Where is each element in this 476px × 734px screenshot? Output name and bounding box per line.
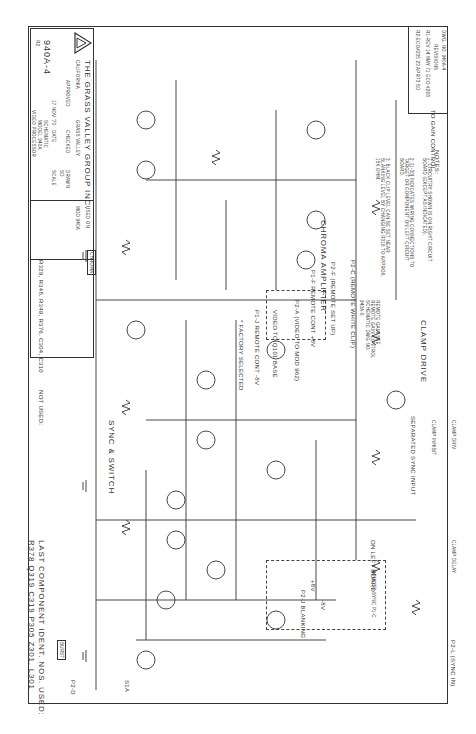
dwg-number: 940A-4 [42,40,52,75]
p2c-label: P2-C (REMOTE WHITE CLIP) [349,260,356,348]
sync-switch-title: SYNC & SWITCH [107,420,116,494]
checked-label: CHECKED [65,130,70,153]
revision-code: R2 [35,40,40,46]
used-on-value: MOD 940A [75,206,80,230]
gvg-logo-icon [74,32,92,54]
p2f-label: P2-F (REMOTE SET UP) [329,262,336,336]
clamp-drive-label: CLAMP DRIV [451,420,456,449]
factory-selected-note: * FACTORY SELECTED [237,320,244,391]
scale-label: SCALE [51,170,56,186]
drawn-label: DRAWN [65,170,70,188]
drawn-value: SD [59,170,64,177]
dwg-no-label: DWG. NO. 940A-4 [441,30,446,70]
title-line-2: MODEL 940A [37,120,42,150]
clamp-delay-label: CLAMP DELAY [451,540,456,573]
company-city: GRASS VALLEY [75,120,80,156]
revision-1: R1-REV 14 MAY 71 ECO #268 [425,30,430,97]
title-line-3: VIDEO PROCESSOR [31,110,36,157]
revisions-header: REVISIONS [433,44,438,70]
p2d-label: P2-D [69,680,76,695]
note-3: 3. BLACK CLIP LEVEL CAN BE SET NEAR BLAN… [374,158,390,278]
last-component-list: R378 Q319 C319 P305 Z301, L301 [27,540,36,690]
title-line-1: SCHEMATIC [43,120,48,148]
company-name: THE GRASS VALLEY GROUP INC. [83,60,92,209]
not-used-label: NOT USED: [37,390,44,425]
date-value: 17 NOV '70 [51,100,56,125]
rotated-drawing: DWG. NO. 940A-4 REVISIONS R1-REV 14 MAY … [0,0,476,734]
remote-gain-note: REMOTE GAIN SEE REMOTE GAIN CONTROL SCHE… [359,300,380,360]
schematic-sheet: DWG. NO. 940A-4 REVISIONS R1-REV 14 MAY … [0,0,476,734]
last-component-label: LAST COMPONENT IDENT. NOS. USED: [37,540,46,716]
separated-sync-label: SEPARATED SYNC INPUT [409,416,416,495]
revision-2: R2-ECO#235 23 APR73 SD [415,30,420,90]
clamp-drive-title: CLAMP DRIVE [419,320,428,383]
left-board-box [266,560,386,630]
to-gain-control-label: TO GAIN CONTROL [429,110,436,170]
approved-label: APPROVED [65,80,70,107]
company-state: CALIFORNIA [75,60,80,89]
remote-sync-label: REMOTE SYNC P1-C [371,570,376,618]
p1j-label: P1-J REMOTE CONT -8V [253,310,260,385]
note-1: 1. CIRCUITRY SHOWN IS ON RIGHT CIRCUIT B… [422,158,432,278]
note-2: 2. [1-30] INDICATES WIRING CONNECTIONS T… [398,158,414,278]
remote-gain-box [266,290,326,340]
date-label: DATE [51,130,56,142]
s1a-label: S1A [123,680,130,692]
burst-tag: BURST [57,640,66,660]
used-on-label: USED ON [85,206,90,228]
p2l-label: P2-L (SYNC IN) [449,640,456,687]
clamp-inhibit-label: CLAMP INHIBIT [431,420,436,455]
